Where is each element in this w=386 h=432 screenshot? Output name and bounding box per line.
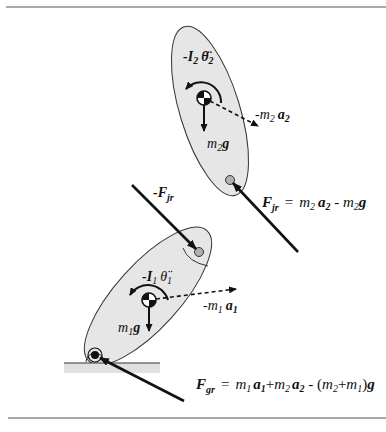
- com-marker-2-icon: [197, 91, 211, 105]
- joint-force-label: -Fjr: [153, 185, 174, 203]
- com-marker-1-icon: [142, 293, 156, 307]
- segment-2: -I2θ̈2 -m2a2 m2g: [156, 18, 290, 204]
- ground-reaction-equation: Fgr=m1a1+m2a2 - (m2+m1)g: [195, 376, 375, 395]
- free-body-diagram: -I2θ̈2 -m2a2 m2g Fjr=m2a2 - m2g -I1θ̈1 -…: [0, 0, 386, 432]
- joint-reaction-equation: Fjr=m2a2 - m2g: [261, 194, 367, 213]
- inertial-force-label-1: -m1a1: [203, 298, 238, 315]
- segment-1: -I1θ̈1 -m1a1 m1g: [65, 209, 237, 383]
- inertial-force-label-2: -m2a2: [255, 107, 290, 124]
- ground-pivot-icon: [91, 351, 99, 359]
